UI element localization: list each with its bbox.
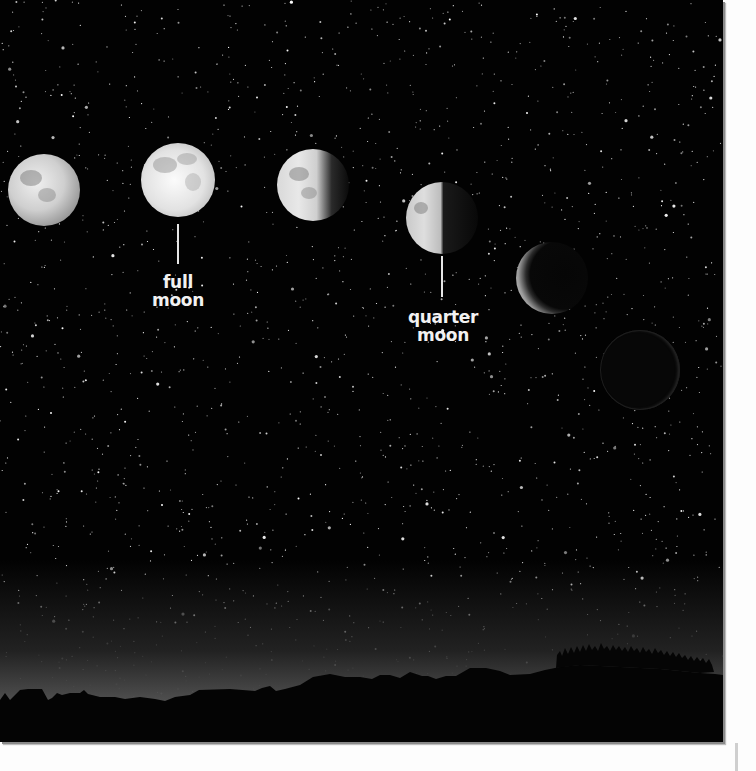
hills (0, 665, 723, 742)
moon-phases-photo: full moon quarter moon (0, 0, 723, 742)
landscape-silhouette (0, 0, 723, 742)
page-edge-tick (735, 743, 738, 771)
